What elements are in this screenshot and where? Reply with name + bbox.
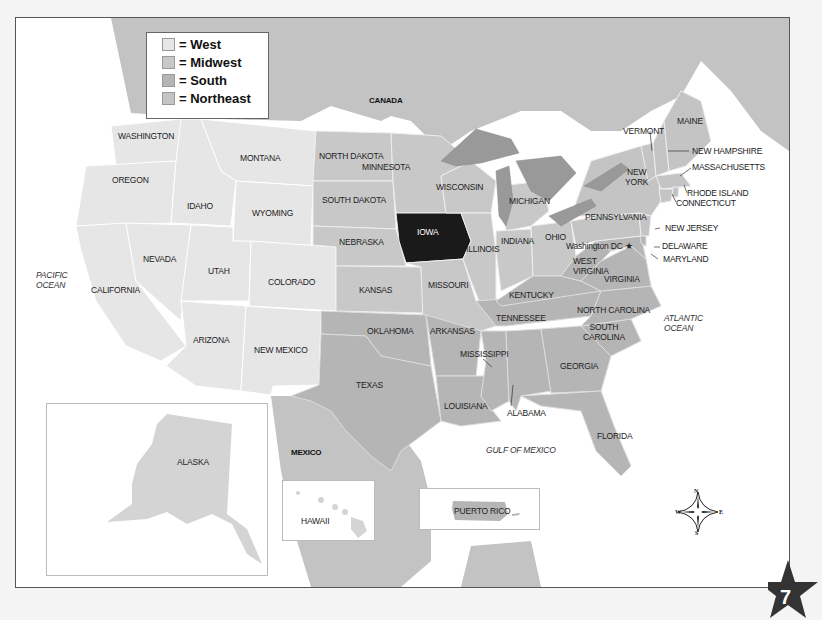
state-label: NORTH CAROLINA xyxy=(577,305,650,315)
state-label: MISSOURI xyxy=(428,280,468,290)
country-label-canada: CANADA xyxy=(369,96,402,106)
compass-n: N xyxy=(694,486,698,496)
state-label: MARYLAND xyxy=(663,254,708,264)
state-label: HAWAII xyxy=(301,516,329,526)
state-label: MICHIGAN xyxy=(509,196,550,206)
state-label: NEW YORK xyxy=(625,167,648,187)
state-label: MASSACHUSETTS xyxy=(692,162,765,172)
state-label: PENNSYLVANIA xyxy=(585,212,647,222)
state-label: GEORGIA xyxy=(560,361,598,371)
ocean-label-line: OCEAN xyxy=(664,323,703,333)
state-label: OHIO xyxy=(545,232,566,242)
state-mississippi xyxy=(481,331,509,411)
page-number: 7 xyxy=(780,586,791,609)
page-number-star-icon xyxy=(768,560,822,620)
state-label: WYOMING xyxy=(252,208,293,218)
state-label: ILLINOIS xyxy=(466,244,499,254)
capital-star-icon: ★ xyxy=(625,241,633,251)
state-label: INDIANA xyxy=(501,236,534,246)
state-label: IDAHO xyxy=(187,201,213,211)
state-label: WISCONSIN xyxy=(436,182,483,192)
state-label: TENNESSEE xyxy=(496,313,546,323)
state-label: WEST VIRGINIA xyxy=(573,256,609,276)
legend-label: = West xyxy=(179,37,221,52)
state-label: NEW HAMPSHIRE xyxy=(692,146,762,156)
ocean-label-atlantic: ATLANTIC OCEAN xyxy=(664,313,703,333)
country-label-mexico: MEXICO xyxy=(291,448,321,458)
state-label: MONTANA xyxy=(240,153,280,163)
state-label-line: WEST xyxy=(573,256,609,266)
state-label-line: SOUTH xyxy=(583,322,625,332)
state-maine xyxy=(664,91,711,171)
compass-s: S xyxy=(695,528,698,538)
hawaii-shape xyxy=(283,481,374,540)
state-label: NEVADA xyxy=(143,254,176,264)
legend-label: = Northeast xyxy=(179,91,251,106)
state-iowa xyxy=(396,213,471,263)
state-label: ALABAMA xyxy=(507,408,546,418)
legend-swatch xyxy=(162,38,175,51)
compass-e: E xyxy=(719,507,723,517)
region-legend: = West = Midwest = South = Northeast xyxy=(146,32,269,119)
state-label: MAINE xyxy=(677,116,703,126)
state-oregon xyxy=(76,161,176,226)
legend-item-west: = West xyxy=(162,36,221,52)
state-label: SOUTH CAROLINA xyxy=(583,322,625,342)
state-colorado xyxy=(249,241,336,311)
hawaii-inset xyxy=(282,480,375,541)
ocean-label-line: OCEAN xyxy=(36,280,68,290)
legend-swatch xyxy=(162,56,175,69)
legend-swatch xyxy=(162,74,175,87)
state-label-highlighted: IOWA xyxy=(417,227,439,237)
state-label: ALASKA xyxy=(177,457,209,467)
legend-label: = Midwest xyxy=(179,55,242,70)
ocean-label-pacific: PACIFIC OCEAN xyxy=(36,270,68,290)
state-label: NORTH DAKOTA xyxy=(319,151,383,161)
state-label: CONNECTICUT xyxy=(676,198,736,208)
legend-label: = South xyxy=(179,73,227,88)
state-label: NEW MEXICO xyxy=(254,345,308,355)
ocean-label-line: ATLANTIC xyxy=(664,313,703,323)
legend-item-south: = South xyxy=(162,72,227,88)
alaska-inset xyxy=(46,403,268,576)
state-label: FLORIDA xyxy=(597,431,632,441)
state-label: WASHINGTON xyxy=(118,131,174,141)
state-label: TEXAS xyxy=(356,380,383,390)
state-label: COLORADO xyxy=(268,277,315,287)
capital-name: Washington DC xyxy=(566,241,623,251)
state-south-dakota xyxy=(313,181,396,229)
state-label: LOUISIANA xyxy=(444,401,488,411)
state-label: RHODE ISLAND xyxy=(687,188,748,198)
state-label: ARKANSAS xyxy=(430,326,475,336)
yucatan-land xyxy=(461,541,541,587)
alaska-shape xyxy=(47,404,267,575)
state-label: NEBRASKA xyxy=(339,237,384,247)
compass-w: W xyxy=(675,507,681,517)
state-label-line: CAROLINA xyxy=(583,332,625,342)
legend-item-midwest: = Midwest xyxy=(162,54,242,70)
state-label: MINNESOTA xyxy=(362,162,410,172)
state-label: MISSISSIPPI xyxy=(460,349,508,359)
capital-label: Washington DC ★ xyxy=(566,241,633,251)
ocean-label-line: PACIFIC xyxy=(36,270,68,280)
state-label: VERMONT xyxy=(623,126,664,136)
state-label: OKLAHOMA xyxy=(367,326,414,336)
legend-swatch xyxy=(162,92,175,105)
state-label: VIRGINIA xyxy=(604,274,640,284)
state-label: KANSAS xyxy=(359,285,392,295)
state-label-line: NEW xyxy=(625,167,648,177)
state-label: NEW JERSEY xyxy=(665,223,718,233)
state-label: OREGON xyxy=(112,175,149,185)
legend-item-northeast: = Northeast xyxy=(162,90,251,106)
state-label: KENTUCKY xyxy=(509,290,554,300)
state-label: UTAH xyxy=(208,266,230,276)
state-label: ARIZONA xyxy=(193,335,229,345)
state-label: DELAWARE xyxy=(662,241,707,251)
state-label-line: YORK xyxy=(625,177,648,187)
state-label-line: VIRGINIA xyxy=(573,266,609,276)
state-connecticut xyxy=(659,189,673,203)
state-label: CALIFORNIA xyxy=(91,285,140,295)
ocean-label-gulf: GULF OF MEXICO xyxy=(486,445,556,455)
territory-label: PUERTO RICO xyxy=(454,506,511,516)
state-label: SOUTH DAKOTA xyxy=(322,195,386,205)
